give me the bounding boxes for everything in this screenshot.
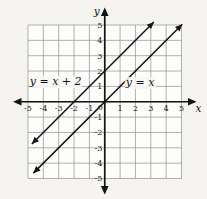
y-axis-bottom-arrowhead <box>101 186 109 195</box>
y-axis-top-arrowhead <box>101 8 109 17</box>
line-label-y-equals-x: y = x <box>125 77 156 89</box>
x-tick-label: -3 <box>55 104 63 113</box>
y-tick-label: 4 <box>97 36 102 45</box>
x-tick-label: 1 <box>118 104 123 113</box>
coordinate-plane-figure: -5-4-3-2-112345-5-4-3-2-1123450yx y = x … <box>0 0 207 199</box>
y-tick-label: -4 <box>94 159 102 168</box>
y-tick-label: -1 <box>94 113 102 122</box>
y-axis-label: y <box>93 5 101 17</box>
y-tick-label: -3 <box>94 144 102 153</box>
x-tick-label: 3 <box>148 104 153 113</box>
x-tick-label: 5 <box>179 104 184 113</box>
line-label-y-equals-x-plus-2: y = x + 2 <box>29 76 83 88</box>
x-tick-label: -1 <box>86 104 94 113</box>
x-axis-left-arrowhead <box>13 98 22 106</box>
plot-svg: -5-4-3-2-112345-5-4-3-2-1123450yx <box>0 0 207 199</box>
y-tick-label: 1 <box>97 82 102 91</box>
x-tick-label: 2 <box>133 104 138 113</box>
y-tick-label: 3 <box>97 52 102 61</box>
y-tick-label: 5 <box>97 21 102 30</box>
x-axis-label: x <box>196 102 202 114</box>
x-tick-label: -5 <box>24 104 32 113</box>
y-tick-label: -5 <box>94 174 102 183</box>
x-tick-label: -4 <box>39 104 47 113</box>
x-tick-label: 4 <box>164 104 169 113</box>
y-tick-label: -2 <box>94 128 102 137</box>
x-tick-label: -2 <box>70 104 78 113</box>
